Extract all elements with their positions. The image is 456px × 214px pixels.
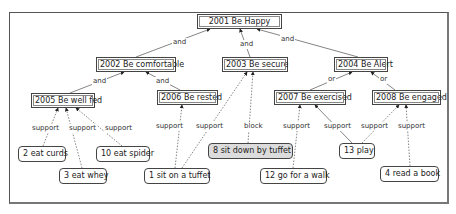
task-node-t13[interactable]: 13 play xyxy=(339,143,375,159)
edge-label: support xyxy=(155,122,184,131)
edge-label: support xyxy=(104,124,133,133)
task-node-t1[interactable]: 1 sit on a tuffet xyxy=(144,168,210,184)
edge-support xyxy=(406,105,410,166)
edge-label: and xyxy=(155,77,170,86)
edge-and xyxy=(257,29,358,57)
task-node-t8[interactable]: 8 sit down by tuffet xyxy=(208,143,293,159)
goal-node-n2004[interactable]: 2004 Be Alert xyxy=(334,57,388,72)
edge-label: or xyxy=(379,75,388,84)
edge-label: support xyxy=(323,122,352,131)
edge-support xyxy=(66,108,82,168)
task-node-t2[interactable]: 2 eat curds xyxy=(18,146,66,162)
edge-label: and xyxy=(280,35,295,44)
edge-label: and xyxy=(92,77,107,86)
edge-block xyxy=(248,72,253,143)
edge-label: and xyxy=(239,40,254,49)
edge-label: and xyxy=(172,38,187,47)
task-node-t3[interactable]: 3 eat whey xyxy=(59,168,107,184)
edge-label: support xyxy=(68,124,97,133)
goal-node-n2003[interactable]: 2003 Be secure xyxy=(222,57,288,72)
edge-label: block xyxy=(243,122,264,131)
edge-label: support xyxy=(360,122,389,131)
task-node-t4[interactable]: 4 read a book xyxy=(380,166,439,182)
edge-support xyxy=(293,105,300,168)
goal-node-n2001[interactable]: 2001 Be Happy xyxy=(197,14,282,29)
edge-support xyxy=(175,105,182,168)
edge-label: support xyxy=(282,122,311,131)
goal-node-n2008[interactable]: 2008 Be engaged xyxy=(372,90,441,105)
task-node-t12[interactable]: 12 go for a walk xyxy=(260,168,327,184)
edge-label: support xyxy=(31,124,60,133)
goal-node-n2007[interactable]: 2007 Be exercised xyxy=(274,90,346,105)
edge-label: support xyxy=(397,122,426,131)
goal-node-n2002[interactable]: 2002 Be comfortable xyxy=(96,57,176,72)
task-node-t10[interactable]: 10 eat spider xyxy=(96,146,150,162)
edge-label: support xyxy=(195,122,224,131)
edge-label: or xyxy=(327,75,336,84)
goal-node-n2005[interactable]: 2005 Be well fed xyxy=(31,93,95,108)
goal-node-n2006[interactable]: 2006 Be rested xyxy=(157,90,218,105)
